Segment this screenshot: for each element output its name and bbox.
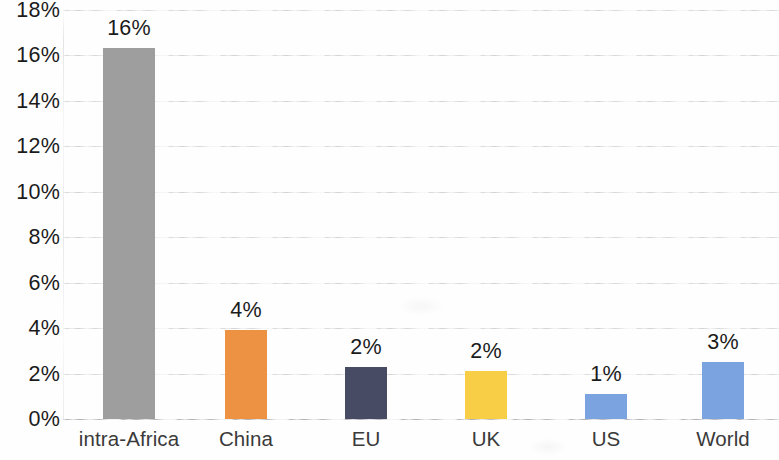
y-tick-2: 2% (2, 362, 60, 387)
x-label-us: US (592, 427, 621, 451)
bar-us[interactable] (585, 394, 627, 419)
bar-china[interactable] (225, 330, 267, 419)
bar-chart: 18% 16% 14% 12% 10% 8% 6% 4% 2% 0% (0, 0, 779, 460)
x-axis: intra-Africa China EU UK US World (63, 427, 779, 460)
bar-value-intra-africa: 16% (107, 16, 151, 41)
x-label-world: World (696, 427, 750, 451)
bar-value-world: 3% (707, 330, 738, 355)
y-tick-16: 16% (2, 43, 60, 68)
bar-uk[interactable] (465, 371, 507, 419)
bar-value-china: 4% (230, 298, 261, 323)
bar-eu[interactable] (345, 367, 387, 419)
bar-value-us: 1% (590, 362, 621, 387)
bar-world[interactable] (702, 362, 744, 419)
y-tick-14: 14% (2, 89, 60, 114)
y-tick-10: 10% (2, 180, 60, 205)
y-axis: 18% 16% 14% 12% 10% 8% 6% 4% 2% 0% (0, 0, 60, 460)
y-tick-12: 12% (2, 134, 60, 159)
x-label-china: China (219, 427, 273, 451)
bar-value-uk: 2% (470, 339, 501, 364)
y-tick-0: 0% (2, 407, 60, 432)
y-tick-18: 18% (2, 0, 60, 23)
bars-layer: 16% 4% 2% 2% 1% (63, 0, 779, 460)
y-tick-6: 6% (2, 271, 60, 296)
x-label-eu: EU (352, 427, 381, 451)
x-label-uk: UK (472, 427, 501, 451)
x-label-intra-africa: intra-Africa (79, 427, 179, 451)
bar-intra-africa[interactable] (103, 48, 155, 419)
plot-area: 16% 4% 2% 2% 1% (63, 0, 779, 460)
y-tick-8: 8% (2, 225, 60, 250)
bar-value-eu: 2% (350, 335, 381, 360)
y-tick-4: 4% (2, 316, 60, 341)
